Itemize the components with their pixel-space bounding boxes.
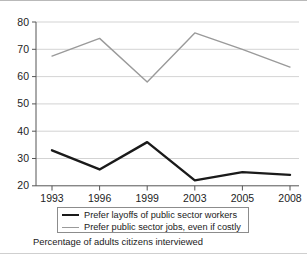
chart-legend: Prefer layoffs of public sector workers … (57, 207, 249, 233)
series-line-public-sector-jobs (52, 33, 290, 82)
x-tick-label: 1996 (88, 192, 112, 204)
legend-label: Prefer layoffs of public sector workers (84, 210, 237, 221)
chart-figure: 80 70 60 50 40 30 20 1993 1996 1999 2003… (0, 0, 307, 254)
black-line-swatch-icon (62, 214, 79, 216)
x-tick-labels: 1993 1996 1999 2003 2005 2008 (40, 192, 302, 204)
y-tick-label: 70 (17, 43, 29, 55)
x-tick-label: 2005 (231, 192, 255, 204)
y-tick-label: 30 (17, 152, 29, 164)
gray-line-swatch-icon (62, 227, 79, 228)
y-tick-label: 80 (17, 16, 29, 28)
x-tick-marks (52, 186, 290, 191)
y-tick-label: 40 (17, 125, 29, 137)
series-line-prefer-layoffs (52, 142, 290, 180)
y-tick-label: 20 (17, 179, 29, 191)
legend-item-prefer-layoffs: Prefer layoffs of public sector workers (58, 209, 248, 221)
x-tick-label: 1993 (40, 192, 64, 204)
y-tick-marks (32, 22, 36, 186)
x-tick-label: 2003 (183, 192, 207, 204)
legend-label: Prefer public sector jobs, even if costl… (84, 222, 241, 233)
y-tick-labels: 80 70 60 50 40 30 20 (17, 16, 29, 192)
gridlines (36, 22, 299, 159)
x-tick-label: 1999 (136, 192, 160, 204)
y-tick-label: 50 (17, 97, 29, 109)
x-tick-label: 2008 (278, 192, 302, 204)
chart-caption: Percentage of adults citizens interviewe… (33, 236, 203, 247)
legend-item-public-sector-jobs: Prefer public sector jobs, even if costl… (58, 221, 248, 233)
y-tick-label: 60 (17, 70, 29, 82)
